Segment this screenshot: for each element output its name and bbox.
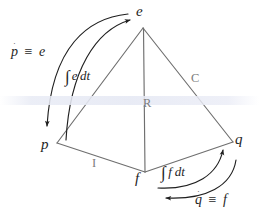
- dot-accent-icon-right: ˙: [197, 190, 200, 199]
- edge-p-f: [57, 143, 145, 172]
- p-dot-variable: ˙p: [11, 45, 18, 59]
- vertex-label-p: p: [41, 137, 49, 152]
- identical-to-icon: ≡: [22, 44, 36, 59]
- q-dot-variable: ˙q: [195, 193, 202, 207]
- edge-e-q: [143, 28, 233, 142]
- relation-q-dot-equals-f: ˙q ≡ f: [195, 193, 227, 207]
- figure-canvas: e p q f R C I ˙p ≡ e ∫edt ∫fdt ˙q ≡ f: [0, 0, 259, 224]
- relation-p-dot-equals-e: ˙p ≡ e: [11, 45, 45, 59]
- integrand-f: f: [166, 164, 172, 179]
- identical-to-icon-right: ≡: [206, 192, 220, 207]
- vertex-label-e: e: [136, 4, 143, 19]
- edge-label-C: C: [191, 72, 199, 85]
- differential-dt-right: dt: [172, 164, 185, 179]
- edge-f-q: [145, 142, 233, 172]
- relation-value-f: f: [223, 192, 227, 207]
- relation-value-e: e: [39, 44, 45, 59]
- edge-label-R: R: [143, 97, 151, 110]
- differential-dt-left: dt: [77, 68, 90, 83]
- vertex-label-q: q: [235, 132, 243, 147]
- relation-integral-f-dt: ∫fdt: [161, 165, 185, 182]
- edge-label-I: I: [92, 157, 96, 170]
- relation-integral-e-dt: ∫edt: [65, 69, 90, 86]
- dot-accent-icon: ˙: [13, 42, 16, 51]
- tetrahedron-of-state-diagram: [0, 0, 259, 224]
- vertex-label-f: f: [135, 171, 139, 186]
